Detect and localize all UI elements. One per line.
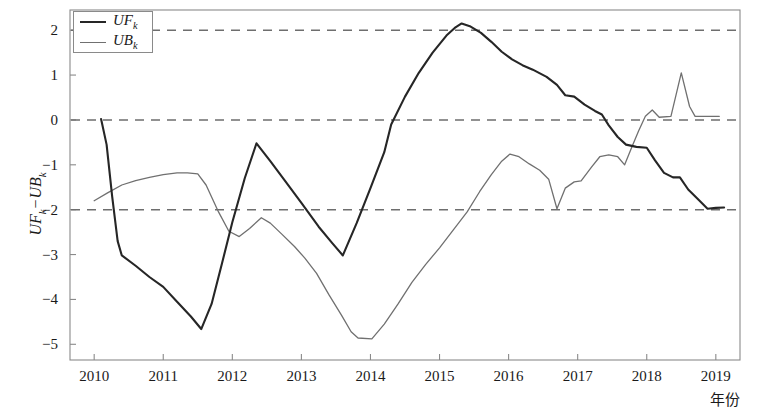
legend-entry-ub[interactable]: UBk (74, 32, 152, 52)
x-tick-label: 2015 (425, 368, 455, 385)
y-tick-label: 0 (0, 111, 58, 128)
y-axis-title-minus: − (27, 199, 44, 210)
legend-label-uf: UFk (113, 13, 138, 31)
legend-label-ub: UBk (113, 33, 138, 51)
mann-kendall-chart-figure: 210−1−2−3−4−5 20102011201220132014201520… (0, 0, 766, 408)
y-axis-title-first-sub: k (36, 209, 48, 214)
legend-swatch-uf (80, 21, 106, 23)
plot-frame (70, 10, 740, 360)
y-axis-title-second: UB (27, 177, 44, 198)
x-tick-label: 2012 (217, 368, 247, 385)
legend-entry-uf[interactable]: UFk (74, 12, 152, 32)
x-axis-title: 年份 (710, 388, 740, 408)
y-tick-label: −5 (0, 336, 58, 353)
x-tick-label: 2011 (149, 368, 178, 385)
y-tick-label: −3 (0, 246, 58, 263)
y-axis-title: UFk−UBk (27, 172, 47, 235)
y-tick-label: −4 (0, 291, 58, 308)
plot-frame-rect (70, 10, 740, 360)
x-tick-label: 2016 (494, 368, 524, 385)
x-tick-label: 2010 (79, 368, 109, 385)
x-tick-label: 2013 (286, 368, 316, 385)
x-tick-label: 2017 (563, 368, 593, 385)
x-tick-label: 2018 (632, 368, 662, 385)
legend-swatch-ub (80, 42, 106, 43)
y-tick-label: 2 (0, 22, 58, 39)
y-axis-title-first: UF (27, 214, 44, 235)
chart-plot-area (0, 0, 766, 408)
chart-legend: UFkUBk (73, 11, 153, 53)
y-tick-label: 1 (0, 67, 58, 84)
y-tick-label: −1 (0, 156, 58, 173)
y-axis-title-second-sub: k (36, 172, 48, 177)
x-tick-label: 2014 (355, 368, 385, 385)
x-tick-label: 2019 (701, 368, 731, 385)
